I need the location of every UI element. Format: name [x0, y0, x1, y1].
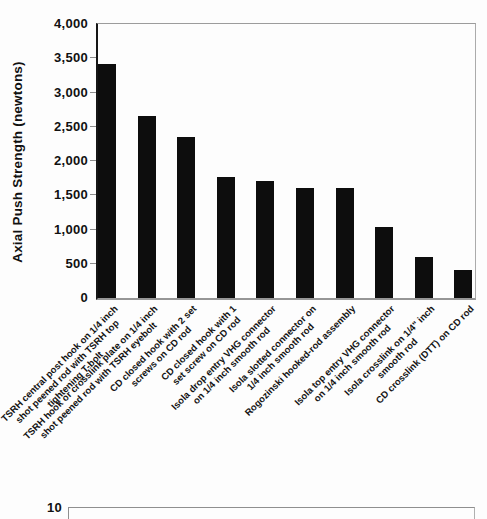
bar — [138, 116, 156, 298]
bar — [177, 137, 195, 298]
y-tick-label: 0 — [26, 290, 88, 305]
bar — [98, 64, 116, 298]
y-tick-label: 1,500 — [26, 187, 88, 202]
y-tick-label: 2,000 — [26, 153, 88, 168]
bar — [336, 188, 354, 298]
bar-chart-figure: Axial Push Strength (newtons) 4,0003,500… — [0, 0, 487, 519]
y-axis-title: Axial Push Strength (newtons) — [10, 61, 25, 263]
x-axis-label: TSRH central post hook on 1/4 inch shot … — [0, 303, 135, 439]
next-chart-frame — [68, 507, 475, 519]
y-tick-label: 1,000 — [26, 221, 88, 236]
bar — [415, 257, 433, 298]
bar — [217, 177, 235, 298]
bar — [375, 227, 393, 298]
y-tick-label: 4,000 — [26, 16, 88, 31]
bar — [454, 270, 472, 298]
y-tick-label: 500 — [26, 255, 88, 270]
y-tick-label: 2,500 — [26, 118, 88, 133]
bar — [256, 181, 274, 298]
y-tick-label: 3,000 — [26, 84, 88, 99]
bar — [296, 188, 314, 298]
next-chart-tick-label: 10 — [24, 500, 62, 515]
plot-area — [96, 23, 476, 300]
y-tick-label: 3,500 — [26, 50, 88, 65]
